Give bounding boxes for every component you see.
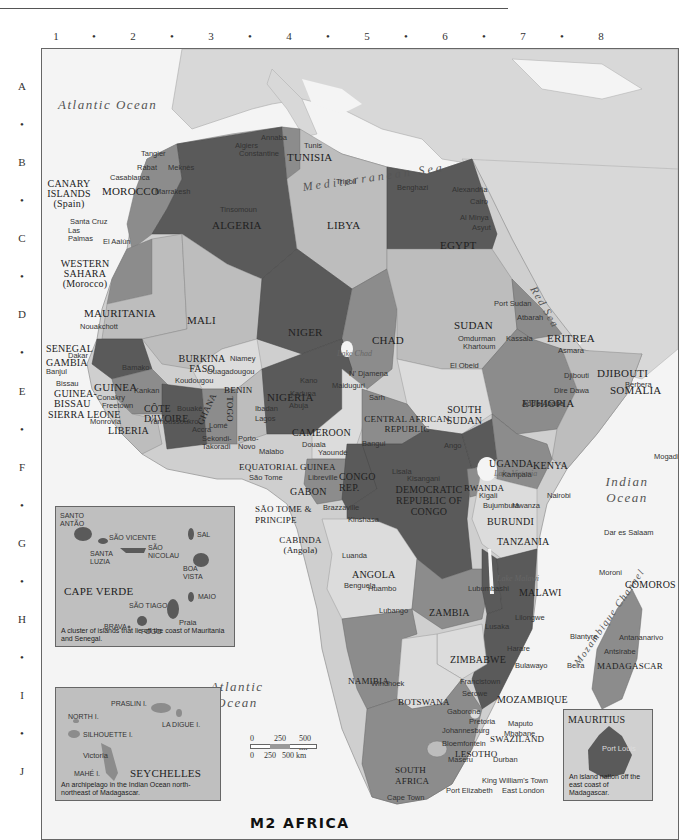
inset-cape-verde: SANTO ANTÃO SÃO VICENTE SANTA LUZIA SÃO … [55, 506, 235, 647]
city-label-sarh: Sarh [369, 393, 385, 402]
island-label-la-digue: LA DIGUE I. [162, 721, 200, 728]
city-label-niamey: Niamey [230, 354, 255, 363]
country-label-guinea: GUINEA [94, 381, 137, 393]
country-label-tunisia: TUNISIA [287, 151, 332, 163]
country-label-congo-rep: CONGO REP. [339, 471, 379, 493]
ocean-label-atlantic-north: Atlantic Ocean [58, 97, 157, 113]
scale-mi-0: 0 [250, 734, 254, 743]
country-label-sao-tome-principe: SÃO TOME & PRINCIPE [255, 504, 315, 526]
inset-seychelles: PRASLIN I. NORTH I. LA DIGUE I. SILHOUET… [55, 687, 221, 801]
col-separator: • [482, 30, 486, 42]
city-label-dar-es-salaam: Dar es Salaam [604, 528, 654, 537]
city-label-addis-ababa: Addis Ababa [522, 399, 564, 408]
inset-title-mauritius: MAURITIUS [568, 714, 625, 725]
scale-mi-500: 500 mi [299, 734, 320, 752]
city-label-bissau: Bissau [56, 379, 79, 388]
country-label-equatorial-guinea: EQUATORIAL GUINEA [239, 462, 336, 472]
row-separator: • [20, 499, 24, 511]
city-label-windhoek: Windhoek [371, 679, 404, 688]
city-label-kaduna: Kaduna [290, 389, 316, 398]
city-label-ndjamena: N' Djamena [349, 369, 388, 378]
city-label-bangui: Bangui [362, 439, 385, 448]
country-label-uganda: UGANDA [489, 458, 534, 469]
city-label-mbabane: Mbabane [504, 729, 535, 738]
city-label-casablanca: Casablanca [110, 173, 150, 182]
city-label-lusaka: Lusaka [485, 622, 509, 631]
city-label-antsirabe: Antsirabe [604, 647, 636, 656]
col-label-5: 5 [364, 30, 370, 42]
city-label-al-minya: Al Minya [460, 213, 489, 222]
city-label-harare: Harare [507, 644, 530, 653]
city-label-libreville: Libreville [308, 473, 338, 482]
city-label-khartoum: Khartoum [463, 342, 496, 351]
country-label-togo: TOGO [225, 396, 235, 422]
city-label-port-elizabeth: Port Elizabeth [446, 786, 493, 795]
col-separator: • [404, 30, 408, 42]
row-separator: • [20, 194, 24, 206]
country-label-angola: ANGOLA [352, 569, 395, 580]
city-label-dakar: Dakar [68, 351, 88, 360]
city-label-tangier: Tangier [141, 149, 166, 158]
city-label-djibouti: Djibouti [564, 371, 589, 380]
city-label-asyut: Asyut [472, 223, 491, 232]
row-label-a: A [18, 80, 26, 92]
column-grid-labels: 1 • 2 • 3 • 4 • 5 • 6 • 7 • 8 [30, 30, 680, 46]
city-label-ango: Ango [444, 441, 462, 450]
city-label-bulawayo: Bulawayo [515, 661, 548, 670]
col-label-7: 7 [520, 30, 526, 42]
ocean-label-indian: Indian Ocean [597, 474, 657, 506]
city-label-durban: Durban [493, 755, 518, 764]
city-label-atbarah: Atbarah [517, 313, 543, 322]
city-label-lagos: Lagos [255, 414, 275, 423]
country-label-sudan: SUDAN [454, 319, 493, 331]
city-label-victoria: Victoria [83, 751, 108, 760]
col-label-4: 4 [286, 30, 292, 42]
city-label-serowe: Serowe [462, 689, 487, 698]
island-label-maio: MAIO [198, 593, 216, 600]
island-label-north: NORTH I. [68, 713, 99, 720]
city-label-moroni: Moroni [599, 568, 622, 577]
city-label-brazzaville: Brazzaville [323, 503, 359, 512]
country-label-eritrea: ERITREA [547, 332, 595, 344]
row-separator: • [20, 651, 24, 663]
col-separator: • [560, 30, 564, 42]
city-label-tunis: Tunis [304, 141, 322, 150]
page-header-rule [0, 8, 508, 9]
col-separator: • [248, 30, 252, 42]
lake-label-chad: Lake Chad [337, 349, 372, 358]
city-label-freetown: Freetown [102, 401, 133, 410]
city-label-kano: Kano [300, 376, 318, 385]
inset-caption-mauritius: An island nation off the east coast of M… [569, 773, 649, 797]
city-label-blantyre: Blantyre [570, 632, 598, 641]
row-label-g: G [18, 537, 26, 549]
city-label-gaborone: Gaborone [447, 707, 480, 716]
country-label-cameroon: CAMEROON [292, 427, 351, 438]
city-label-yaounde: Yaoundé [318, 448, 347, 457]
city-label-maputo: Maputo [508, 719, 533, 728]
city-label-tripoli: Tripoli [336, 177, 356, 186]
country-label-mozambique: MOZAMBIQUE [497, 694, 568, 705]
row-separator: • [20, 270, 24, 282]
inset-title-seychelles: SEYCHELLES [130, 767, 201, 779]
city-label-el-aaiun: El Aaiún [103, 237, 131, 246]
country-label-south-africa: SOUTH AFRICA [395, 765, 435, 787]
city-label-king-williams-town: King William's Town [482, 776, 548, 785]
island-label-santo-antao: SANTO ANTÃO [60, 512, 90, 528]
row-label-c: C [18, 232, 25, 244]
city-label-santa-cruz: Santa Cruz [70, 217, 108, 226]
island-label-praslin: PRASLIN I. [111, 700, 147, 707]
country-label-chad: CHAD [372, 334, 404, 346]
city-label-mogadishu: Mogadishu [654, 452, 679, 461]
lake-label-malawi: Lake Malawi [497, 574, 539, 583]
scale-mi-250: 250 [274, 734, 286, 743]
country-label-mali: MALI [187, 314, 216, 326]
city-label-kigali: Kigali [479, 491, 497, 500]
city-label-alexandria: Alexandria [452, 185, 487, 194]
country-label-western-sahara: WESTERN SAHARA (Morocco) [56, 259, 114, 289]
city-label-malabo: Malabo [259, 447, 284, 456]
city-label-nouakchott: Nouakchott [80, 322, 118, 331]
island-label-santa-luzia: SANTA LUZIA [90, 550, 116, 566]
island-label-sal: SAL [197, 531, 210, 538]
country-label-liberia: LIBERIA [108, 425, 149, 436]
country-label-benin: BENIN [224, 385, 253, 395]
